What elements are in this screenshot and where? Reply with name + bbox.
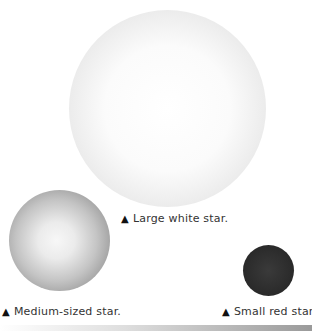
small-star-caption-text: Small red star. — [234, 305, 312, 318]
triangle-marker-icon: ▲ — [121, 213, 129, 224]
small-star-caption: ▲Small red star. — [222, 305, 312, 318]
small-red-star-illustration — [243, 245, 294, 296]
medium-star-caption: ▲Medium-sized star. — [2, 305, 121, 318]
medium-star-caption-text: Medium-sized star. — [14, 305, 121, 318]
triangle-marker-icon: ▲ — [2, 306, 10, 317]
page-edge-shadow — [0, 325, 312, 331]
large-star-caption: ▲Large white star. — [121, 212, 228, 225]
large-white-star-illustration — [69, 10, 266, 207]
triangle-marker-icon: ▲ — [222, 306, 230, 317]
medium-star-illustration — [9, 190, 110, 291]
large-star-caption-text: Large white star. — [133, 212, 228, 225]
